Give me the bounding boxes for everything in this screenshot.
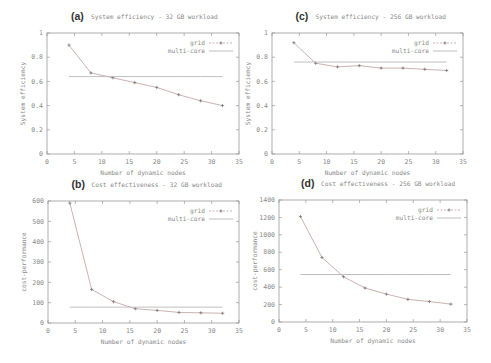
x-axis-label: Number of dynamic nodes bbox=[100, 169, 186, 177]
y-tick-label: 600 bbox=[263, 266, 275, 274]
legend-marker bbox=[219, 209, 222, 212]
legend-marker bbox=[443, 41, 446, 44]
y-tick-label: 600 bbox=[32, 197, 44, 205]
y-axis-label: System efficiency bbox=[244, 62, 252, 126]
y-tick-label: 200 bbox=[263, 301, 275, 309]
y-tick-label: 0.6 bbox=[256, 78, 268, 86]
data-point-marker bbox=[177, 93, 180, 96]
x-tick-label: 35 bbox=[463, 326, 471, 334]
figure-four-panel-charts: (a)System efficiency - 32 GB workload051… bbox=[0, 0, 491, 363]
x-tick-label: 5 bbox=[72, 158, 76, 166]
data-point-marker bbox=[358, 64, 361, 67]
x-tick-label: 35 bbox=[235, 158, 243, 166]
legend-label-multi-core: multi-core bbox=[392, 47, 430, 54]
legend-label-multi-core: multi-core bbox=[168, 47, 206, 54]
y-tick-label: 1 bbox=[264, 29, 268, 37]
y-axis-label: cost-performance bbox=[251, 231, 259, 291]
panel-letter: (a) bbox=[71, 10, 84, 22]
y-tick-label: 1200 bbox=[259, 214, 275, 222]
data-point-marker bbox=[428, 300, 431, 303]
x-tick-label: 25 bbox=[180, 158, 188, 166]
data-point-marker bbox=[363, 286, 366, 289]
data-point-marker bbox=[445, 69, 448, 72]
x-tick-label: 25 bbox=[409, 326, 417, 334]
x-tick-label: 10 bbox=[323, 158, 331, 166]
y-tick-label: 200 bbox=[32, 279, 44, 287]
legend-marker bbox=[219, 41, 222, 44]
x-tick-label: 0 bbox=[270, 158, 274, 166]
x-tick-label: 5 bbox=[73, 327, 77, 335]
data-point-marker bbox=[449, 303, 452, 306]
x-tick-label: 30 bbox=[436, 326, 444, 334]
x-tick-label: 5 bbox=[304, 326, 308, 334]
y-tick-label: 0 bbox=[271, 318, 275, 326]
legend-label-multi-core: multi-core bbox=[396, 214, 434, 221]
y-tick-label: 500 bbox=[32, 218, 44, 226]
y-tick-label: 300 bbox=[32, 258, 44, 266]
x-tick-label: 10 bbox=[99, 327, 107, 335]
data-point-marker bbox=[133, 81, 136, 84]
y-tick-label: 400 bbox=[263, 283, 275, 291]
data-point-marker bbox=[336, 65, 339, 68]
data-point-marker bbox=[406, 298, 409, 301]
x-tick-label: 0 bbox=[45, 158, 49, 166]
panel-letter: (d) bbox=[301, 177, 314, 189]
legend-marker bbox=[447, 208, 450, 211]
y-tick-label: 1 bbox=[39, 29, 43, 37]
chart-panel-c: (c)System efficiency - 256 GB workload05… bbox=[244, 10, 467, 177]
x-tick-label: 20 bbox=[377, 158, 385, 166]
y-tick-label: 1000 bbox=[259, 231, 275, 239]
y-tick-label: 0.2 bbox=[256, 126, 268, 134]
x-tick-label: 15 bbox=[356, 326, 364, 334]
y-tick-label: 0.8 bbox=[31, 53, 43, 61]
x-tick-label: 5 bbox=[297, 158, 301, 166]
y-tick-label: 0.4 bbox=[31, 102, 43, 110]
x-tick-label: 30 bbox=[208, 158, 216, 166]
data-point-marker bbox=[401, 66, 404, 69]
x-axis-label: Number of dynamic nodes bbox=[325, 169, 411, 177]
data-point-marker bbox=[221, 104, 224, 107]
chart-panel-d: (d)Cost effectiveness - 256 GB workload0… bbox=[251, 177, 471, 345]
series-line-grid bbox=[69, 45, 223, 106]
x-tick-label: 15 bbox=[350, 158, 358, 166]
x-tick-label: 10 bbox=[329, 326, 337, 334]
y-tick-label: 1400 bbox=[259, 196, 275, 204]
data-point-marker bbox=[199, 311, 202, 314]
series-line-grid bbox=[300, 217, 450, 305]
x-tick-label: 0 bbox=[277, 326, 281, 334]
x-tick-label: 20 bbox=[153, 158, 161, 166]
y-tick-label: 800 bbox=[263, 248, 275, 256]
y-tick-label: 0 bbox=[39, 150, 43, 158]
data-point-marker bbox=[134, 307, 137, 310]
data-point-marker bbox=[199, 99, 202, 102]
x-tick-label: 30 bbox=[432, 158, 440, 166]
x-axis-label: Number of dynamic nodes bbox=[330, 337, 416, 345]
legend-label-grid: grid bbox=[418, 206, 433, 214]
y-tick-label: 0.6 bbox=[31, 78, 43, 86]
y-axis-label: System efficiency bbox=[19, 62, 27, 126]
legend-label-grid: grid bbox=[190, 207, 205, 215]
data-point-marker bbox=[380, 66, 383, 69]
y-tick-label: 0.8 bbox=[256, 53, 268, 61]
data-point-marker bbox=[155, 86, 158, 89]
legend-label-multi-core: multi-core bbox=[168, 215, 206, 222]
x-tick-label: 30 bbox=[208, 327, 216, 335]
data-point-marker bbox=[177, 311, 180, 314]
data-point-marker bbox=[156, 309, 159, 312]
panel-letter: (b) bbox=[72, 178, 85, 190]
legend-label-grid: grid bbox=[190, 39, 205, 47]
x-tick-label: 25 bbox=[181, 327, 189, 335]
x-tick-label: 10 bbox=[98, 158, 106, 166]
y-tick-label: 0.4 bbox=[256, 102, 268, 110]
chart-title: Cost effectiveness - 32 GB workload bbox=[92, 181, 223, 188]
x-tick-label: 25 bbox=[405, 158, 413, 166]
y-tick-label: 0 bbox=[264, 150, 268, 158]
x-tick-label: 35 bbox=[459, 158, 467, 166]
data-point-marker bbox=[68, 201, 71, 204]
y-tick-label: 0.2 bbox=[31, 126, 43, 134]
y-tick-label: 100 bbox=[32, 299, 44, 307]
data-point-marker bbox=[221, 312, 224, 315]
y-axis-label: cost-performance bbox=[20, 232, 28, 292]
y-tick-label: 0 bbox=[40, 319, 44, 327]
x-axis-label: Number of dynamic nodes bbox=[101, 338, 187, 346]
